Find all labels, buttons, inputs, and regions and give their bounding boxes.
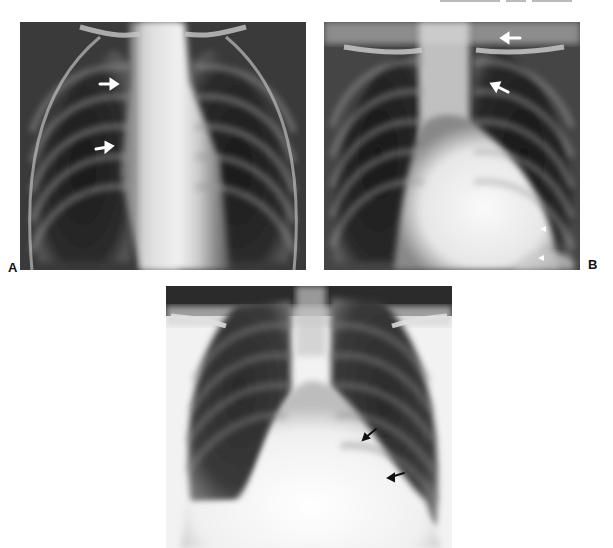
xray-image-a: [20, 22, 306, 270]
panel-label-a: A: [8, 261, 17, 274]
radiograph-panel-a: [20, 22, 306, 270]
panel-label-b: B: [588, 258, 597, 271]
cropped-header-text: [440, 0, 613, 6]
xray-image-b: [324, 22, 580, 270]
radiograph-panel-b: [324, 22, 580, 270]
xray-image-c: [166, 286, 452, 548]
radiograph-panel-c: [166, 286, 452, 548]
